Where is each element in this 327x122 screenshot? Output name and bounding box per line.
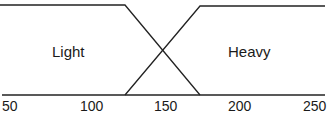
tick-150: 150 bbox=[154, 98, 177, 114]
heavy-label: Heavy bbox=[228, 43, 271, 60]
light-membership-curve bbox=[0, 5, 200, 95]
tick-100: 100 bbox=[80, 98, 103, 114]
tick-50: 50 bbox=[2, 98, 18, 114]
heavy-membership-curve bbox=[125, 6, 325, 95]
light-label: Light bbox=[52, 43, 85, 60]
tick-250: 250 bbox=[303, 98, 326, 114]
tick-200: 200 bbox=[228, 98, 251, 114]
